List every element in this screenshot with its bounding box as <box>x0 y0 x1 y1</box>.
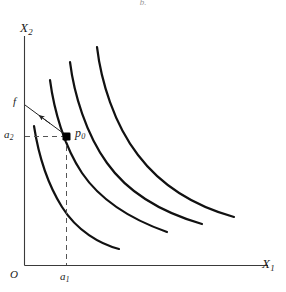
y-axis-label-subscript: 2 <box>28 27 32 37</box>
x-axis-label-subscript: 1 <box>270 263 274 273</box>
x-coordinate-label-subscript: 1 <box>66 275 70 284</box>
x-coordinate-label-text: a <box>60 270 66 282</box>
y-coordinate-label-text: a <box>4 128 10 140</box>
y-axis-label: X2 <box>20 21 33 34</box>
optimum-point-label: p0 <box>75 127 85 139</box>
budget-intercept-label: f <box>13 96 16 107</box>
indifference-curve-2 <box>50 80 167 232</box>
x-axis-label: X1 <box>262 257 275 270</box>
x-axis-label-text: X <box>262 256 270 271</box>
y-axis-label-text: X <box>20 20 28 35</box>
indifference-map-plot <box>0 0 286 292</box>
indifference-curve-1 <box>34 126 119 249</box>
figure-container: b. X2 X1 O f a2 a1 <box>0 0 286 292</box>
indifference-curve-3 <box>70 62 202 224</box>
budget-line-direction-arrow-icon <box>39 115 50 123</box>
y-coordinate-label: a2 <box>4 129 13 140</box>
indifference-curve-4 <box>97 47 234 217</box>
y-coordinate-label-subscript: 2 <box>10 133 14 142</box>
optimum-point-label-subscript: 0 <box>81 132 85 141</box>
x-coordinate-label: a1 <box>60 271 69 282</box>
origin-label: O <box>10 269 18 280</box>
optimum-point-marker <box>63 133 71 141</box>
